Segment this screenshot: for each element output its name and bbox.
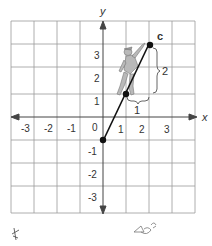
coordinate-graph: x y -3 -2 -1 0 1 2 3 3 2 1 -1 -2 -3 c 2 … bbox=[0, 0, 212, 246]
svg-text:1: 1 bbox=[118, 124, 124, 135]
point-c-label: c bbox=[157, 30, 163, 42]
rise-brace bbox=[153, 48, 160, 93]
point-0-neg1 bbox=[100, 137, 106, 143]
svg-text:-1: -1 bbox=[67, 123, 76, 134]
svg-text:-1: -1 bbox=[88, 146, 97, 157]
origin-label: 0 bbox=[92, 122, 98, 133]
svg-text:3: 3 bbox=[94, 50, 100, 61]
x-axis bbox=[11, 114, 197, 120]
svg-text:-3: -3 bbox=[88, 192, 97, 203]
svg-text:-3: -3 bbox=[21, 123, 30, 134]
point-1-1 bbox=[123, 91, 129, 97]
svg-text:-2: -2 bbox=[88, 169, 97, 180]
run-brace bbox=[127, 97, 149, 104]
svg-text:3: 3 bbox=[164, 124, 170, 135]
svg-text:2: 2 bbox=[94, 73, 100, 84]
svg-text:1: 1 bbox=[94, 96, 100, 107]
point-c bbox=[147, 42, 153, 48]
climber-illustration bbox=[117, 43, 145, 95]
x-tick-labels: -3 -2 -1 0 1 2 3 bbox=[21, 122, 170, 135]
x-axis-label: x bbox=[201, 111, 208, 123]
handwritten-mark-left bbox=[12, 228, 19, 240]
svg-text:-2: -2 bbox=[44, 123, 53, 134]
svg-text:2: 2 bbox=[139, 124, 145, 135]
y-axis-label: y bbox=[99, 5, 107, 17]
rise-label: 2 bbox=[162, 65, 168, 77]
handwritten-scribble-right bbox=[134, 223, 156, 234]
run-label: 1 bbox=[134, 104, 140, 116]
